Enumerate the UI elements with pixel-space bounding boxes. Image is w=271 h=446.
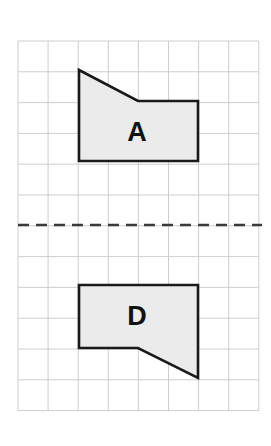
geometry-worksheet: A D [0, 0, 271, 446]
canvas-background [0, 0, 271, 446]
shape-a-label: A [127, 117, 147, 147]
reflection-figure: A D [0, 0, 271, 446]
shape-d-label: D [127, 301, 147, 331]
